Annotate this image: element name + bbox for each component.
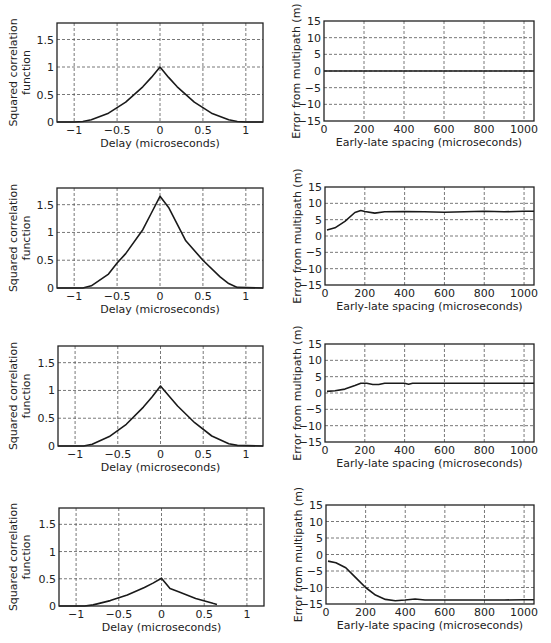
- svg-text:−5: −5: [306, 403, 322, 416]
- svg-text:0: 0: [322, 444, 329, 457]
- svg-text:10: 10: [309, 516, 323, 529]
- x-axis-label: Early-late spacing (microseconds): [336, 300, 522, 313]
- svg-text:400: 400: [394, 287, 415, 300]
- svg-text:5: 5: [315, 214, 322, 227]
- svg-text:200: 200: [354, 444, 375, 457]
- svg-text:0: 0: [315, 230, 322, 243]
- svg-text:1.5: 1.5: [39, 518, 57, 531]
- svg-text:0.5: 0.5: [38, 412, 56, 425]
- svg-text:200: 200: [354, 123, 375, 136]
- svg-text:−5: −5: [305, 82, 321, 95]
- svg-text:−0.5: −0.5: [105, 608, 132, 621]
- svg-text:600: 600: [434, 606, 455, 619]
- panel-row1-right: 02004006008001000−15−10−5051015Early-lat…: [290, 3, 538, 149]
- svg-text:400: 400: [395, 606, 416, 619]
- svg-text:−1: −1: [68, 608, 84, 621]
- svg-text:5: 5: [314, 48, 321, 61]
- y-axis-label: Error from multipath (m): [291, 325, 304, 460]
- svg-text:5: 5: [316, 532, 323, 545]
- data-line: [59, 578, 217, 606]
- svg-text:−5: −5: [306, 246, 322, 259]
- svg-text:0: 0: [314, 65, 321, 78]
- svg-text:15: 15: [308, 338, 322, 351]
- svg-text:−1: −1: [66, 124, 82, 137]
- svg-text:800: 800: [474, 444, 495, 457]
- svg-text:10: 10: [307, 32, 321, 45]
- svg-text:600: 600: [434, 444, 455, 457]
- x-axis-label: Early-late spacing (microseconds): [336, 457, 522, 470]
- y-axis-label: Squared correlation: [7, 18, 20, 126]
- svg-text:1: 1: [47, 61, 54, 74]
- y-axis-label: Squared correlation: [7, 184, 20, 292]
- svg-text:0.5: 0.5: [39, 573, 57, 586]
- svg-text:−0.5: −0.5: [104, 448, 131, 461]
- panel-row4-right: 02004006008001000−15−10−5051015Early-lat…: [292, 487, 538, 632]
- svg-text:−5: −5: [307, 565, 323, 578]
- svg-text:600: 600: [434, 123, 455, 136]
- y-axis-label: Squared correlation: [7, 342, 20, 450]
- svg-text:0.5: 0.5: [195, 608, 213, 621]
- x-axis-label: Delay (microseconds): [100, 137, 219, 150]
- svg-text:1: 1: [242, 290, 249, 303]
- y-axis-label: Error from multipath (m): [292, 487, 305, 622]
- x-axis-label: Delay (microseconds): [101, 461, 220, 474]
- svg-text:10: 10: [308, 197, 322, 210]
- svg-text:1: 1: [242, 124, 249, 137]
- svg-text:1.5: 1.5: [37, 199, 55, 212]
- svg-text:0: 0: [315, 387, 322, 400]
- x-axis-label: Early-late spacing (microseconds): [337, 619, 523, 632]
- svg-text:1.5: 1.5: [38, 357, 56, 370]
- panel-row3-left: −1−0.500.5100.511.5Delay (microseconds)S…: [7, 342, 263, 474]
- svg-text:15: 15: [307, 15, 321, 28]
- svg-text:1: 1: [243, 608, 250, 621]
- y-axis-label-line2: function: [20, 374, 33, 419]
- svg-text:0: 0: [321, 123, 328, 136]
- svg-text:200: 200: [354, 287, 375, 300]
- svg-text:0: 0: [48, 440, 55, 453]
- panel-row1-left: −1−0.500.5100.511.5Delay (microseconds)S…: [7, 18, 263, 150]
- svg-text:600: 600: [434, 287, 455, 300]
- svg-text:0.5: 0.5: [37, 89, 55, 102]
- svg-text:0: 0: [158, 608, 165, 621]
- y-axis-label-line2: function: [20, 535, 33, 580]
- svg-text:15: 15: [309, 499, 323, 512]
- svg-text:800: 800: [474, 606, 495, 619]
- svg-text:200: 200: [355, 606, 376, 619]
- y-axis-label: Error from multipath (m): [290, 3, 303, 138]
- panel-row2-right: 02004006008001000−15−10−5051015Early-lat…: [291, 168, 538, 313]
- panel-row3-right: 02004006008001000−15−10−5051015Early-lat…: [291, 325, 538, 470]
- svg-text:0: 0: [322, 287, 329, 300]
- svg-text:800: 800: [474, 123, 495, 136]
- y-axis-label-line2: function: [20, 216, 33, 261]
- svg-text:400: 400: [394, 444, 415, 457]
- svg-text:0.5: 0.5: [37, 254, 55, 267]
- y-axis-label: Error from multipath (m): [291, 168, 304, 303]
- svg-text:0: 0: [49, 600, 56, 613]
- x-axis-label: Delay (microseconds): [100, 303, 219, 316]
- svg-text:0: 0: [157, 448, 164, 461]
- svg-text:−0.5: −0.5: [104, 124, 131, 137]
- panel-row4-left: −1−0.500.5100.511.5Delay (microseconds)S…: [7, 503, 264, 634]
- svg-text:1.5: 1.5: [37, 34, 55, 47]
- svg-text:400: 400: [394, 123, 415, 136]
- x-axis-label: Early-late spacing (microseconds): [336, 136, 522, 149]
- svg-text:0: 0: [316, 549, 323, 562]
- svg-text:800: 800: [474, 287, 495, 300]
- y-axis-label-line2: function: [20, 50, 33, 95]
- data-line: [328, 561, 534, 601]
- svg-text:0: 0: [323, 606, 330, 619]
- svg-text:10: 10: [308, 354, 322, 367]
- svg-text:−1: −1: [67, 448, 83, 461]
- panel-row2-left: −1−0.500.5100.511.5Delay (microseconds)S…: [7, 184, 263, 316]
- svg-text:15: 15: [308, 181, 322, 194]
- svg-text:0.5: 0.5: [194, 124, 212, 137]
- x-axis-label: Delay (microseconds): [102, 621, 221, 634]
- svg-text:5: 5: [315, 371, 322, 384]
- data-line: [327, 383, 534, 391]
- svg-text:1: 1: [48, 384, 55, 397]
- svg-text:1000: 1000: [510, 287, 538, 300]
- svg-text:1: 1: [242, 448, 249, 461]
- svg-text:1: 1: [47, 226, 54, 239]
- svg-text:0.5: 0.5: [194, 290, 212, 303]
- multipath-figure: −1−0.500.5100.511.5Delay (microseconds)S…: [0, 0, 551, 643]
